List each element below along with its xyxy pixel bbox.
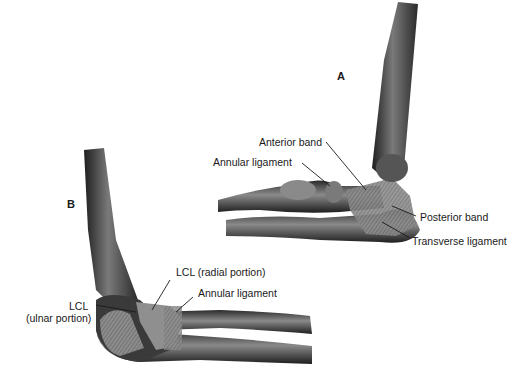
label-annular-ligament-a: Annular ligament (213, 156, 292, 168)
panel-b-arm (84, 148, 312, 364)
label-ulnar-portion: (ulnar portion) (26, 312, 91, 324)
label-anterior-band: Anterior band (259, 136, 322, 148)
panel-label-a: A (337, 70, 345, 82)
label-posterior-band: Posterior band (420, 211, 488, 223)
label-annular-ligament-b: Annular ligament (198, 287, 277, 299)
panel-label-b: B (67, 198, 75, 210)
panel-a-arm (218, 2, 420, 243)
label-lcl-radial-portion: LCL (radial portion) (176, 266, 266, 278)
label-transverse-ligament: Transverse ligament (412, 235, 507, 247)
label-lcl: LCL (69, 300, 88, 312)
